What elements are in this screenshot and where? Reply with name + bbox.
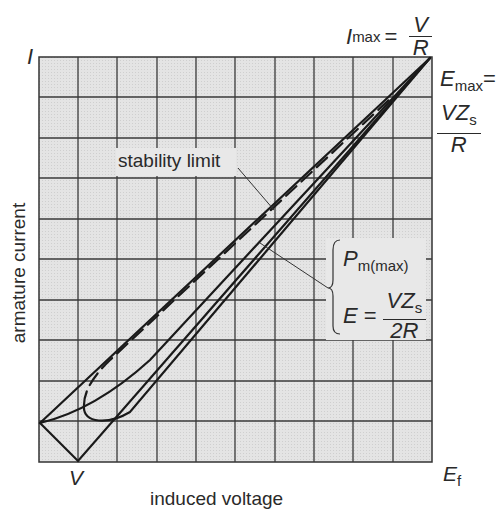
e-half-lhs: E [343, 303, 358, 329]
imax-den: R [413, 37, 429, 59]
imax-num: V [409, 14, 432, 37]
x-axis-symbol: Ef [443, 462, 461, 489]
pmmax-sub: m(max) [358, 257, 409, 274]
ef-sub: f [457, 472, 461, 489]
emax-lhs: E [440, 66, 455, 91]
ef-main: E [443, 462, 457, 485]
y-axis-label: armature current [8, 198, 30, 348]
stability-limit-label: stability limit [118, 150, 220, 172]
imax-sub: max [352, 28, 380, 45]
e-half-eq: = [364, 303, 377, 329]
emax-sub: max [455, 77, 483, 94]
emax-annotation: Emax= [440, 66, 496, 94]
x-tick-v: V [69, 466, 83, 490]
emax-eq: = [483, 66, 496, 91]
emax-frac: VZsR [437, 100, 481, 156]
imax-frac: VR [409, 14, 432, 59]
e-half-den: 2R [390, 320, 418, 342]
emax-den: R [451, 134, 467, 156]
diagram-canvas [0, 0, 503, 528]
e-half-label: E = VZs2R [343, 290, 426, 342]
imax-annotation: Imax = VR [346, 14, 432, 59]
emax-num-sub: s [469, 111, 477, 128]
pmmax-p: P [343, 246, 358, 271]
emax-num: VZ [441, 100, 469, 125]
y-axis-symbol: I [27, 44, 33, 70]
x-axis-label: induced voltage [150, 488, 283, 510]
pmmax-label: Pm(max) [343, 246, 409, 274]
e-half-num-sub: s [415, 299, 423, 316]
e-half-frac: VZs2R [383, 290, 427, 342]
e-half-num: VZ [387, 288, 415, 313]
imax-eq: = [384, 24, 397, 50]
